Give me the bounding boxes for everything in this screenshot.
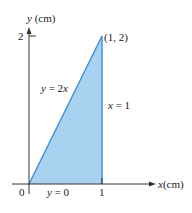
y-axis-label: y (cm) — [26, 12, 56, 25]
region-diagram: y (cm) 2 (1, 2) y = 2x x = 1 y = 0 0 1 x… — [0, 0, 192, 213]
y-axis-arrow-icon — [27, 27, 32, 34]
x-axis-arrow-icon — [149, 182, 156, 187]
y-tick-label: 2 — [18, 30, 24, 42]
x-axis-label: x(cm) — [157, 178, 184, 191]
origin-label: 0 — [19, 186, 25, 198]
vertex-label: (1, 2) — [104, 31, 128, 44]
base-label: y = 0 — [46, 186, 70, 198]
x-tick-label: 1 — [99, 186, 105, 198]
vertical-line-label: x = 1 — [107, 99, 130, 111]
hypotenuse-label: y = 2x — [40, 82, 68, 94]
